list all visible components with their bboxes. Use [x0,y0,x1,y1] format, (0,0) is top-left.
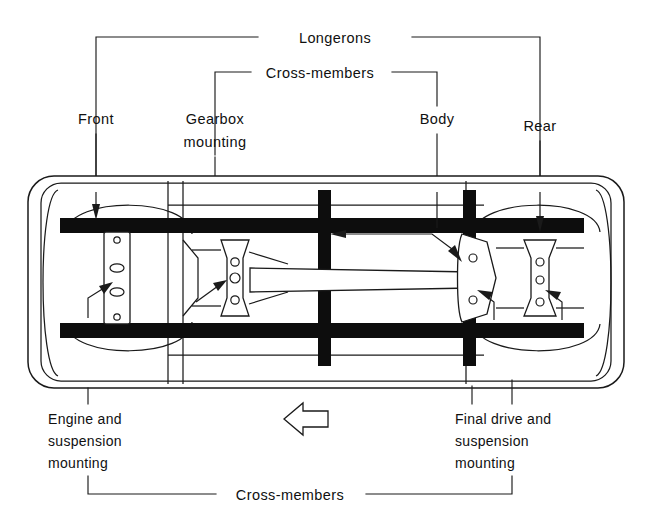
cross-members-bottom-label: Cross-members [236,487,344,503]
rear-mount-hole-3 [536,298,544,306]
front-label: Front [78,111,114,127]
final-drive-label-line3: mounting [455,455,515,471]
engine-mount-hole-4 [114,314,120,320]
gearbox-hole-3 [231,296,239,304]
engine-mounting-plate-body [104,232,130,324]
propeller-shaft-tunnel [250,268,472,292]
engine-mounting-label-line3: mounting [48,455,108,471]
gearbox-label-line2: mounting [184,134,247,150]
gearbox-hole-1 [231,258,239,266]
cross-members-bottom-left-arm [88,476,216,494]
engine-mount-hole-1 [114,237,120,243]
body-label: Body [420,111,455,127]
cross-members-top-bracket: Cross-members [215,65,437,155]
rear-label: Rear [523,118,556,134]
gearbox-hole-2 [230,273,240,283]
final-drive-label-line1: Final drive and [455,411,551,427]
direction-of-travel-arrow-icon [284,403,328,435]
longerons-bracket: Longerons [96,30,540,188]
gearbox-label-line1: Gearbox [186,111,245,127]
rear-mount-hole-2 [536,276,544,284]
engine-mounting-plate [104,232,130,324]
cross-members-bottom-bracket: Cross-members [88,476,512,503]
final-drive-label-line2: suspension [455,433,529,449]
rear-mount-hole-1 [536,258,544,266]
final-drive-hole-2 [469,296,477,304]
final-drive-hole-1 [469,254,477,262]
longerons-label: Longerons [299,30,371,46]
cross-members-top-right-arm [392,72,437,106]
engine-mounting-label-line2: suspension [48,433,122,449]
final-drive-and-suspension-mounting-callout: Final drive and suspension mounting [455,380,551,471]
cross-members-top-label: Cross-members [266,65,374,81]
chassis-drawing [28,176,624,388]
chassis-diagram-figure: Longerons Cross-members Front Gearbox mo… [0,0,651,529]
engine-mount-hole-3 [110,288,124,296]
engine-mounting-label-line1: Engine and [48,411,122,427]
cross-members-bottom-right-arm [366,476,512,494]
chassis-diagram-svg: Longerons Cross-members Front Gearbox mo… [0,0,651,529]
engine-and-suspension-mounting-callout: Engine and suspension mounting [48,388,122,471]
engine-mount-hole-2 [110,264,124,272]
